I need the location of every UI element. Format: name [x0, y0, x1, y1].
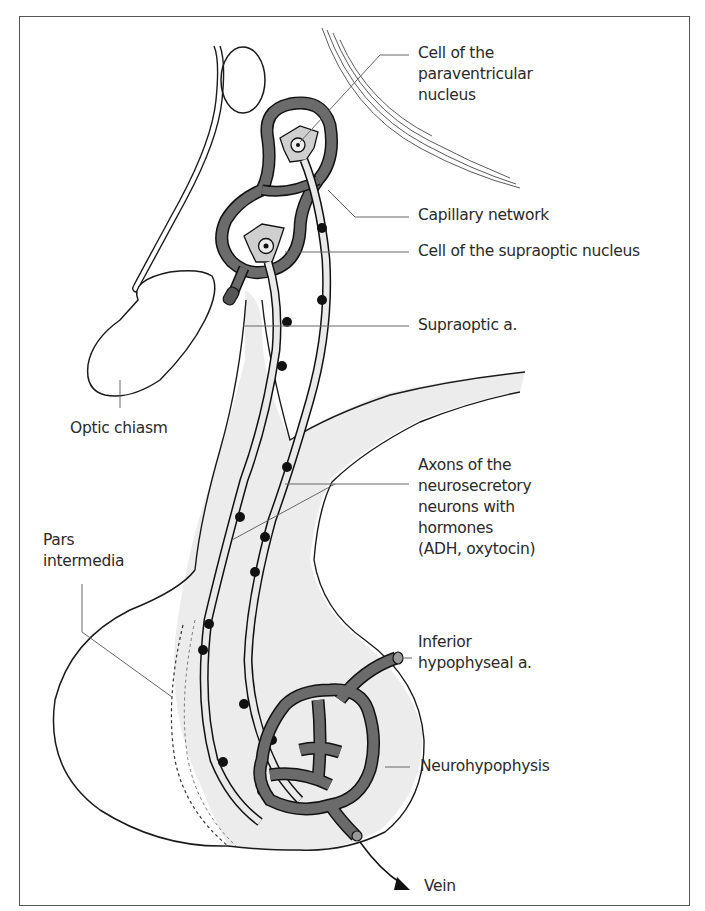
optic-chiasm-shape	[88, 271, 215, 396]
label-paraventricular-cell: Cell of the paraventricular nucleus	[418, 43, 533, 106]
label-neurohypophysis: Neurohypophysis	[420, 756, 550, 777]
label-axons: Axons of the neurosecretory neurons with…	[418, 455, 535, 560]
label-supraoptic-cell: Cell of the supraoptic nucleus	[418, 241, 640, 262]
label-optic-chiasm: Optic chiasm	[70, 418, 168, 439]
paraventricular-neuron	[280, 126, 318, 162]
label-vein: Vein	[424, 876, 456, 897]
hypothalamus-outline	[133, 46, 218, 293]
label-capillary-network: Capillary network	[418, 205, 549, 226]
label-pars-intermedia: Pars intermedia	[43, 530, 124, 572]
neurohypophysis-diagram: Cell of the paraventricular nucleus Capi…	[0, 0, 705, 911]
oval-structure	[221, 47, 265, 113]
diagram-artwork	[0, 0, 705, 911]
label-inferior-hypophyseal-artery: Inferior hypophyseal a.	[418, 632, 532, 674]
supraoptic-neuron	[244, 224, 284, 262]
label-supraoptic-artery: Supraoptic a.	[418, 315, 517, 336]
vein-arrow	[360, 842, 402, 884]
